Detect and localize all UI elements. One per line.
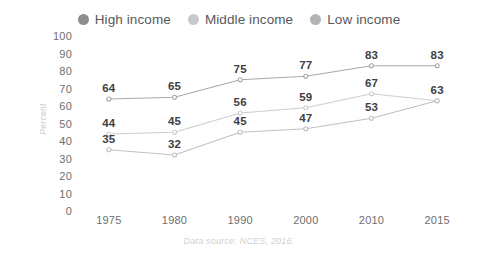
data-point-label: 45	[168, 115, 181, 127]
legend-label: Middle income	[205, 12, 293, 27]
y-axis-tick: 90	[30, 48, 72, 60]
data-point-marker[interactable]	[435, 99, 439, 103]
x-axis-tick: 1980	[162, 214, 187, 226]
legend-dot-icon	[78, 14, 89, 25]
data-point-label: 56	[234, 96, 247, 108]
x-axis-tick: 2000	[293, 214, 318, 226]
data-point-marker[interactable]	[107, 97, 111, 101]
y-axis-tick: 40	[30, 135, 72, 147]
data-point-label: 32	[168, 138, 181, 150]
data-point-label: 64	[102, 82, 115, 94]
x-axis-tick: 1990	[228, 214, 253, 226]
data-point-marker[interactable]	[370, 116, 374, 120]
x-axis-tick: 2010	[359, 214, 384, 226]
y-axis-tick: 80	[30, 65, 72, 77]
data-point-label: 59	[299, 91, 312, 103]
y-axis-tick: 20	[30, 170, 72, 182]
legend-entry[interactable]: High income	[78, 12, 171, 27]
series-line	[109, 101, 437, 155]
y-axis-tick: 60	[30, 100, 72, 112]
chart-legend: High incomeMiddle incomeLow income	[0, 8, 478, 30]
data-point-label: 63	[431, 84, 444, 96]
data-point-marker[interactable]	[304, 127, 308, 131]
data-point-label: 35	[102, 133, 115, 145]
x-axis-tick: 2015	[425, 214, 450, 226]
data-point-label: 83	[431, 49, 444, 61]
plot-region: 6465757783834445565967633532454753	[76, 36, 470, 211]
data-point-label: 65	[168, 80, 181, 92]
legend-dot-icon	[310, 14, 321, 25]
data-point-marker[interactable]	[304, 106, 308, 110]
x-axis-tick: 1975	[96, 214, 121, 226]
y-axis-tick: 30	[30, 153, 72, 165]
legend-label: Low income	[327, 12, 400, 27]
data-point-label: 53	[365, 101, 378, 113]
chart-area: Percent 1009080706050403020100 646575778…	[0, 36, 478, 226]
plot-svg	[76, 36, 470, 211]
legend-entry[interactable]: Middle income	[188, 12, 293, 27]
data-point-label: 44	[102, 117, 115, 129]
data-point-marker[interactable]	[370, 64, 374, 68]
data-point-marker[interactable]	[238, 130, 242, 134]
x-axis-tick-labels: 197519801990200020102015	[76, 214, 470, 232]
data-point-label: 83	[365, 49, 378, 61]
y-axis-tick: 0	[30, 205, 72, 217]
series-line	[109, 66, 437, 99]
legend-dot-icon	[188, 14, 199, 25]
data-point-marker[interactable]	[435, 64, 439, 68]
data-point-marker[interactable]	[238, 78, 242, 82]
y-axis-tick: 10	[30, 188, 72, 200]
legend-label: High income	[95, 12, 171, 27]
data-point-label: 45	[234, 115, 247, 127]
data-point-label: 47	[299, 112, 312, 124]
source-note: Data source: NCES, 2016.	[0, 236, 478, 246]
data-point-label: 67	[365, 77, 378, 89]
data-point-marker[interactable]	[107, 148, 111, 152]
y-axis-tick: 100	[30, 30, 72, 42]
data-point-marker[interactable]	[370, 92, 374, 96]
y-axis-tick-labels: 1009080706050403020100	[30, 36, 72, 211]
legend-entry[interactable]: Low income	[310, 12, 400, 27]
data-point-marker[interactable]	[173, 95, 177, 99]
data-point-label: 77	[299, 59, 312, 71]
y-axis-tick: 50	[30, 118, 72, 130]
data-point-marker[interactable]	[173, 153, 177, 157]
y-axis-tick: 70	[30, 83, 72, 95]
data-point-label: 75	[234, 63, 247, 75]
data-point-marker[interactable]	[173, 130, 177, 134]
data-point-marker[interactable]	[304, 74, 308, 78]
